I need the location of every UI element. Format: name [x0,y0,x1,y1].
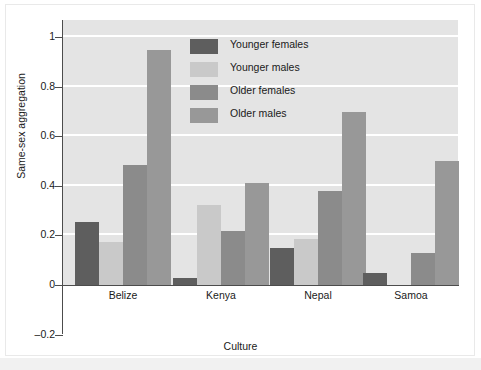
x-axis-line [62,285,459,286]
y-axis-tick-label: 0.4 [15,179,55,191]
y-axis-tick [55,136,63,137]
bar [147,50,171,285]
y-axis-tick-label: 1 [15,30,55,42]
figure: Same-sex aggregation –0.200.20.40.60.81 … [0,0,481,370]
bar [435,161,459,285]
y-axis-tick-label: 0.2 [15,228,55,240]
x-axis-tick-label: Belize [78,289,168,301]
bar [270,248,294,285]
plot-area [63,20,458,285]
x-axis-tick-label: Samoa [366,289,456,301]
figure-bottom-band [0,358,481,370]
y-axis-tick-label: 0 [15,278,55,290]
legend-swatch [190,108,218,123]
bar [99,242,123,285]
y-axis-tick [55,335,63,336]
y-axis-tick [55,285,63,286]
y-axis-line [62,20,63,285]
bar [221,231,245,285]
legend-label: Younger males [230,61,300,73]
bar [245,183,269,285]
y-axis-tick-label: 0.8 [15,80,55,92]
legend-label: Older females [230,84,295,96]
bar-series-container [63,20,458,285]
legend-label: Younger females [230,38,308,50]
bar-group [75,20,171,285]
bar [173,278,197,285]
bar [411,253,435,285]
bar-group [173,20,269,285]
legend-swatch [190,85,218,100]
legend-label: Older males [230,107,287,119]
y-axis-line-extension [62,285,63,334]
bar-group [270,20,366,285]
x-axis-tick-label: Kenya [176,289,266,301]
x-axis-tick-label: Nepal [273,289,363,301]
y-axis-tick [55,186,63,187]
bar-group [363,20,459,285]
bar [75,222,99,285]
legend-swatch [190,62,218,77]
x-axis-title: Culture [0,340,481,352]
y-axis-tick [55,87,63,88]
bar [123,165,147,285]
legend-swatch [190,39,218,54]
bar [363,273,387,285]
y-axis-tick-label: –0.2 [15,328,55,340]
y-axis-tick [55,235,63,236]
y-axis-tick [55,37,63,38]
bar [318,191,342,285]
y-axis-ticks: –0.200.20.40.60.81 [8,0,55,370]
bar [197,205,221,285]
y-axis-tick-label: 0.6 [15,129,55,141]
bar [294,239,318,285]
